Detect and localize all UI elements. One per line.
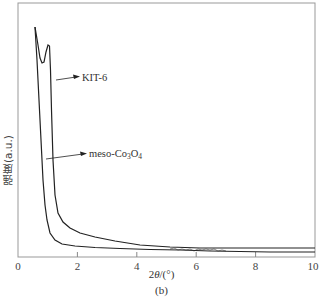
chart-canvas: 0 2 4 6 8 10 KIT-6 meso-Co3O4 [0, 0, 323, 299]
svg-text:KIT-6: KIT-6 [82, 72, 107, 83]
figure-caption: (b) [0, 284, 323, 296]
x-axis-label-suffix: /(°) [160, 268, 175, 280]
series-kit6-line [35, 27, 315, 248]
arrow-head-icon [80, 152, 87, 157]
kit6-annotation: KIT-6 [56, 72, 107, 83]
x-axis-label: 2θ/(°) [0, 268, 323, 280]
arrow-head-icon [73, 75, 80, 80]
plot-frame [18, 3, 315, 257]
y-axis-label: 强度(a.u.) [0, 100, 14, 220]
meso-co3o4-annotation: meso-Co3O4 [46, 148, 142, 161]
svg-text:meso-Co3O4: meso-Co3O4 [89, 148, 142, 161]
x-axis-ticks [77, 252, 255, 257]
series-meso-co3o4-line [35, 27, 315, 252]
